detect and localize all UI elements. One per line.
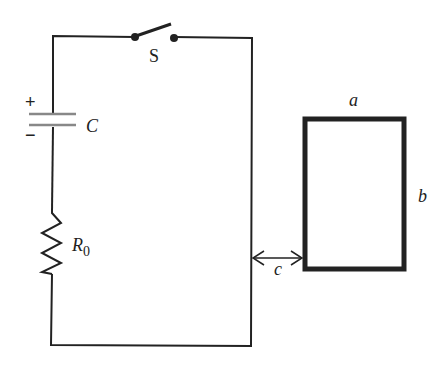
switch-label: S	[149, 46, 159, 66]
circuit-wires	[51, 36, 252, 346]
resistor-icon	[42, 211, 61, 274]
circuit-diagram: S + − C R0 a b c	[0, 0, 444, 371]
resistor-label: R0	[71, 235, 90, 259]
wire-loop	[305, 119, 404, 269]
wire-left-middle	[52, 127, 53, 211]
wire-bottom-right	[51, 37, 252, 346]
capacitor-plus-sign: +	[25, 92, 36, 112]
switch-icon	[131, 24, 178, 42]
capacitor-minus-sign: −	[25, 125, 36, 145]
loop-height-label: b	[418, 186, 427, 206]
wire-top-left	[53, 36, 135, 113]
capacitor-label: C	[86, 116, 99, 136]
separation-label: c	[274, 259, 282, 279]
loop-width-label: a	[349, 90, 358, 110]
capacitor-icon	[29, 114, 76, 125]
